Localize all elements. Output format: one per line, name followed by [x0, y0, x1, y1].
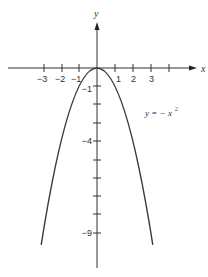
x-tick-labels: −3 −2 −1 1 2 3: [37, 74, 154, 84]
chart-svg: x y −3 −2 −1 1 2 3: [0, 0, 208, 277]
x-axis-arrow-icon: [189, 66, 197, 71]
y-axis-arrow-icon: [95, 22, 100, 30]
y-tick-label: −1: [82, 84, 92, 94]
x-axis-label: x: [200, 63, 206, 74]
curve-label: y = − x 2: [144, 106, 178, 118]
parabola-figure: x y −3 −2 −1 1 2 3: [0, 0, 208, 277]
x-tick-label: −1: [71, 74, 81, 84]
y-tick-label: −9: [82, 228, 92, 238]
curve-label-exponent: 2: [175, 106, 178, 112]
x-tick-label: 3: [149, 74, 154, 84]
y-tick-labels: −1 −4 −9: [82, 84, 92, 238]
x-tick-label: 2: [131, 74, 136, 84]
curve-label-main: y = − x: [144, 108, 172, 118]
x-tick-label: −3: [37, 74, 47, 84]
x-tick-label: −2: [55, 74, 65, 84]
y-tick-label: −4: [82, 136, 92, 146]
y-axis-label: y: [93, 8, 99, 19]
x-tick-label: 1: [116, 74, 121, 84]
